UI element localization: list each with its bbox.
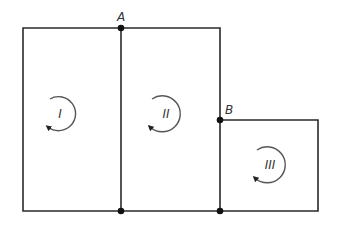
node-label-B: B [225, 103, 233, 117]
node-label-A: A [116, 10, 125, 24]
loop-arrow-I-icon [48, 97, 76, 131]
node-A [118, 25, 125, 32]
loop-label-II: II [162, 107, 170, 121]
nodes [118, 25, 224, 215]
node-bottom-middle [118, 208, 125, 215]
wires [23, 28, 318, 211]
loop-label-I: I [58, 107, 62, 121]
node-bottom-right [217, 208, 224, 215]
node-B [217, 117, 224, 124]
circuit-diagram: A B I II III [0, 0, 338, 233]
loop-label-III: III [265, 158, 276, 172]
